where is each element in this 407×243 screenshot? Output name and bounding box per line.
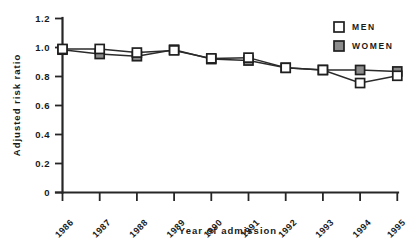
- y-axis-title: Adjusted risk ratio: [11, 54, 22, 156]
- y-tick-label: 0: [44, 187, 50, 198]
- data-point-men-1991: [244, 53, 253, 62]
- data-point-men-1988: [132, 48, 141, 57]
- y-tick-label: 0.6: [35, 100, 50, 111]
- y-tick-label: 1.2: [35, 13, 50, 24]
- risk-ratio-line-chart: 1.2 1.0 0.8 0.6 0.4 0.2 0 1986 1987 1988: [0, 0, 407, 243]
- y-tick-label: 0.2: [35, 158, 50, 169]
- y-tick-label: 1.0: [35, 42, 50, 53]
- x-axis-title: Year of admission: [179, 225, 277, 236]
- data-point-women-1994: [356, 65, 365, 74]
- data-point-men-1990: [207, 54, 216, 63]
- data-point-men-1992: [281, 63, 290, 72]
- y-tick-label: 0.8: [35, 71, 50, 82]
- data-point-men-1993: [318, 65, 327, 74]
- data-point-men-1989: [170, 46, 179, 55]
- data-point-men-1994: [356, 79, 365, 88]
- data-point-men-1987: [95, 44, 104, 53]
- chart-background: [0, 0, 407, 243]
- data-point-men-1995: [393, 71, 402, 80]
- legend-label-women: WOMEN: [352, 41, 394, 51]
- legend-swatch-men: [334, 22, 344, 32]
- legend-label-men: MEN: [352, 22, 376, 32]
- y-tick-label: 0.4: [35, 129, 50, 140]
- legend-swatch-women: [334, 41, 344, 51]
- chart-figure: 1.2 1.0 0.8 0.6 0.4 0.2 0 1986 1987 1988: [0, 0, 407, 243]
- data-point-men-1986: [58, 44, 67, 53]
